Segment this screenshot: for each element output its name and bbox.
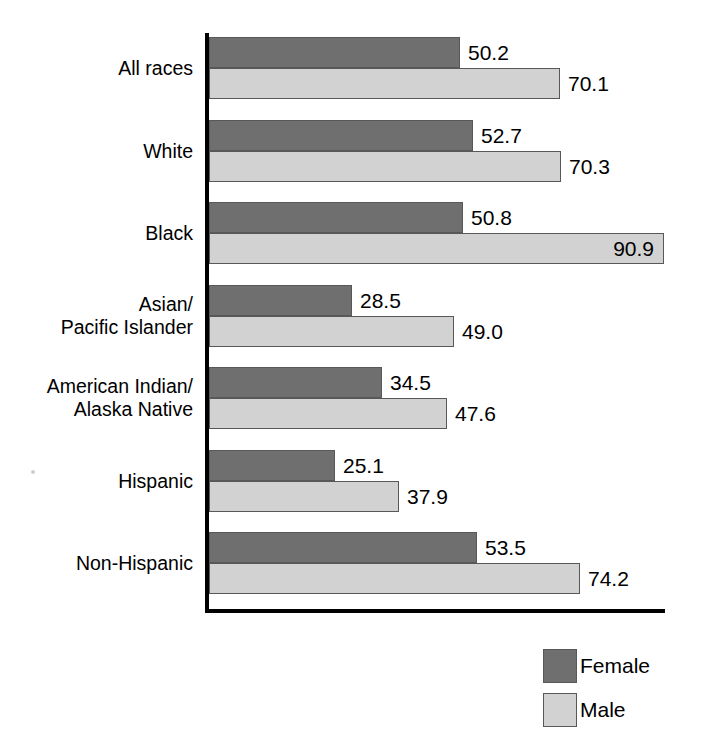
scan-speck — [31, 470, 35, 474]
bar-value-female: 53.5 — [485, 535, 526, 560]
legend-item-female: Female — [543, 644, 701, 688]
bar-female — [209, 202, 463, 233]
bar-row-female: 28.5 — [209, 285, 552, 316]
category-label: Asian/ Pacific Islander — [0, 293, 193, 339]
plot-area: All races50.270.1White52.770.3Black50.89… — [0, 0, 701, 620]
bar-row-female: 53.5 — [209, 532, 677, 563]
bar-row-male: 37.9 — [209, 481, 599, 512]
bar-value-female: 50.8 — [471, 205, 512, 230]
bar-row-male: 70.3 — [209, 151, 701, 182]
bar-male — [209, 481, 399, 512]
legend-item-male: Male — [543, 688, 701, 732]
bar-row-female: 52.7 — [209, 120, 673, 151]
bar-male — [209, 316, 454, 347]
bar-value-male: 74.2 — [588, 566, 629, 591]
bar-value-male: 70.1 — [568, 71, 609, 96]
bar-value-female: 28.5 — [360, 288, 401, 313]
bar-row-male: 70.1 — [209, 68, 701, 99]
bar-row-male: 74.2 — [209, 563, 701, 594]
bar-female — [209, 367, 382, 398]
legend-label-female: Female — [580, 654, 650, 678]
bar-row-male: 49.0 — [209, 316, 654, 347]
bar-value-male: 49.0 — [462, 319, 503, 344]
bar-male — [209, 68, 560, 99]
bar-female — [209, 532, 477, 563]
bar-row-female: 34.5 — [209, 367, 582, 398]
bar-row-male: 47.6 — [209, 398, 647, 429]
bar-value-male: 90.9 — [596, 236, 654, 261]
category-label: All races — [0, 57, 193, 80]
bar-female — [209, 37, 460, 68]
bar-row-male: 90.9 — [209, 233, 701, 264]
category-label: White — [0, 140, 193, 163]
bar-female — [209, 120, 473, 151]
bar-female — [209, 450, 335, 481]
legend-label-male: Male — [580, 698, 626, 722]
bar-value-female: 52.7 — [481, 123, 522, 148]
bar-value-male: 70.3 — [569, 154, 610, 179]
bar-male — [209, 151, 561, 182]
bar-female — [209, 285, 352, 316]
legend-swatch-female-icon — [543, 649, 577, 683]
bar-value-female: 34.5 — [390, 370, 431, 395]
legend: Female Male — [543, 644, 701, 732]
bar-value-male: 47.6 — [455, 401, 496, 426]
bar-value-female: 25.1 — [343, 453, 384, 478]
chart-root: All races50.270.1White52.770.3Black50.89… — [0, 0, 701, 736]
bar-male — [209, 398, 447, 429]
bar-value-male: 37.9 — [407, 484, 448, 509]
bar-value-female: 50.2 — [468, 40, 509, 65]
category-label: American Indian/ Alaska Native — [0, 375, 193, 421]
category-label: Black — [0, 222, 193, 245]
category-label: Non-Hispanic — [0, 552, 193, 575]
bar-row-female: 50.8 — [209, 202, 663, 233]
bar-row-female: 25.1 — [209, 450, 535, 481]
category-label: Hispanic — [0, 470, 193, 493]
x-axis-line — [205, 609, 665, 613]
legend-swatch-male-icon — [543, 693, 577, 727]
bar-row-female: 50.2 — [209, 37, 660, 68]
bar-male — [209, 563, 580, 594]
